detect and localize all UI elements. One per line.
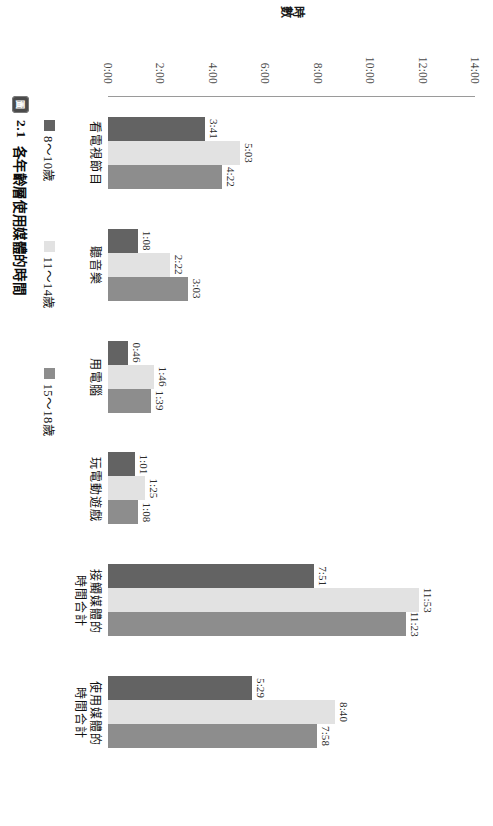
bar: 2:22	[108, 253, 170, 277]
bar: 11:23	[108, 612, 406, 636]
bar-value-label: 1:01	[138, 454, 150, 474]
legend-item[interactable]: 11～14歲	[41, 241, 60, 310]
bar: 1:08	[108, 500, 138, 524]
category-label: 用電腦	[65, 321, 107, 433]
bar: 1:39	[108, 389, 151, 413]
chart-legend: 8～10歲11～14歲15～18歲	[39, 120, 61, 720]
bar-slot: 1:25	[108, 476, 475, 500]
bar: 1:25	[108, 476, 145, 500]
bar-slot: 3:41	[108, 117, 475, 141]
figure-caption: 圖 2.1 各年齡層使用媒體的時間	[11, 96, 31, 295]
bar: 7:51	[108, 564, 314, 588]
category-label: 玩電動遊戲	[65, 433, 107, 545]
bar-slot: 5:29	[108, 676, 475, 700]
bar: 8:40	[108, 700, 335, 724]
bar: 5:03	[108, 141, 240, 165]
bar-value-label: 3:41	[208, 119, 220, 139]
bar-slot: 11:23	[108, 612, 475, 636]
bar-slot: 2:22	[108, 253, 475, 277]
bar: 7:58	[108, 724, 317, 748]
legend-label: 8～10歲	[41, 136, 60, 183]
legend-label: 11～14歲	[41, 257, 60, 310]
category-axis-labels: 看電視節目聽音樂用電腦玩電動遊戲接觸媒體的時間合計使用媒體的時間合計	[65, 97, 107, 769]
bar-value-label: 2:22	[173, 255, 185, 275]
bar-value-label: 7:58	[320, 726, 332, 746]
bar: 5:29	[108, 676, 252, 700]
bar-slot: 8:40	[108, 700, 475, 724]
bar-value-label: 0:46	[131, 343, 143, 363]
value-axis-tick: 8:00	[312, 63, 324, 84]
plot-area: 3:415:034:221:082:223:030:461:461:391:01…	[108, 96, 475, 768]
bar-slot: 1:39	[108, 389, 475, 413]
bar-slot: 11:53	[108, 588, 475, 612]
bar-group: 5:298:407:58	[108, 656, 475, 768]
bar-group: 7:5111:5311:23	[108, 544, 475, 656]
bar-value-label: 3:03	[191, 279, 203, 299]
legend-swatch-icon	[45, 120, 56, 131]
bar-groups: 3:415:034:221:082:223:030:461:461:391:01…	[108, 97, 475, 768]
bar: 1:46	[108, 365, 154, 389]
bar-value-label: 11:23	[409, 612, 421, 637]
bar: 3:03	[108, 277, 188, 301]
bar-value-label: 1:46	[157, 367, 169, 387]
bar-group: 0:461:461:39	[108, 321, 475, 433]
bar-value-label: 5:03	[243, 143, 255, 163]
value-axis-title: 時數	[279, 4, 304, 20]
value-axis-tick: 4:00	[207, 63, 219, 84]
bar-slot: 1:08	[108, 229, 475, 253]
bar-slot: 7:58	[108, 724, 475, 748]
rotated-page-stage: 14:0012:0010:008:006:004:002:000:00時數 3:…	[0, 0, 493, 826]
bar: 11:53	[108, 588, 420, 612]
value-axis-tick: 0:00	[102, 63, 114, 84]
bar-slot: 1:08	[108, 500, 475, 524]
bar-slot: 4:22	[108, 165, 475, 189]
bar-slot: 0:46	[108, 341, 475, 365]
value-axis-tick: 14:00	[469, 57, 481, 84]
bar-value-label: 1:08	[141, 502, 153, 522]
bar: 4:22	[108, 165, 222, 189]
bar: 0:46	[108, 341, 128, 365]
category-label: 接觸媒體的時間合計	[65, 545, 107, 657]
bar-slot: 1:46	[108, 365, 475, 389]
category-label: 使用媒體的時間合計	[65, 657, 107, 769]
legend-label: 15～18歲	[41, 384, 60, 437]
value-axis: 14:0012:0010:008:006:004:002:000:00時數	[108, 0, 475, 92]
bar-group: 1:082:223:03	[108, 209, 475, 321]
bar-value-label: 11:53	[423, 588, 435, 613]
bar-slot: 1:01	[108, 452, 475, 476]
bar: 1:01	[108, 452, 135, 476]
figure-caption-text: 各年齡層使用媒體的時間	[11, 146, 31, 296]
bar-value-label: 4:22	[225, 167, 237, 187]
bar-slot: 5:03	[108, 141, 475, 165]
legend-item[interactable]: 15～18歲	[41, 368, 60, 437]
value-axis-tick: 6:00	[259, 63, 271, 84]
figure-icon: 圖	[13, 96, 30, 113]
value-axis-tick: 10:00	[364, 57, 376, 84]
bar-group: 1:011:251:08	[108, 432, 475, 544]
figure-container: 14:0012:0010:008:006:004:002:000:00時數 3:…	[0, 0, 493, 826]
value-axis-tick: 2:00	[154, 63, 166, 84]
bar-slot: 7:51	[108, 564, 475, 588]
bar-slot: 3:03	[108, 277, 475, 301]
bar-value-label: 8:40	[338, 702, 350, 722]
bar-value-label: 5:29	[255, 678, 267, 698]
category-label: 聽音樂	[65, 209, 107, 321]
bar: 3:41	[108, 117, 205, 141]
category-label: 看電視節目	[65, 97, 107, 209]
figure-number: 2.1	[13, 120, 29, 139]
bar-value-label: 1:39	[154, 391, 166, 411]
bar-group: 3:415:034:22	[108, 97, 475, 209]
legend-item[interactable]: 8～10歲	[41, 120, 60, 183]
legend-swatch-icon	[45, 368, 56, 379]
bar-value-label: 1:08	[141, 231, 153, 251]
bar-value-label: 1:25	[148, 478, 160, 498]
bar: 1:08	[108, 229, 138, 253]
legend-swatch-icon	[45, 241, 56, 252]
bar-value-label: 7:51	[317, 566, 329, 586]
value-axis-tick: 12:00	[417, 57, 429, 84]
